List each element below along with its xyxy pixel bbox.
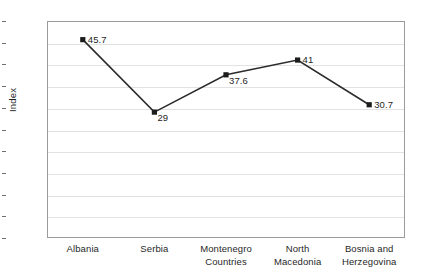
data-point-label: 30.7: [374, 100, 393, 110]
x-axis-title: Countries: [205, 256, 247, 269]
line-chart: 50454035302520151050 Index AlbaniaSerbia…: [0, 0, 425, 278]
series-layer: [0, 0, 425, 278]
data-point-label: 41: [303, 55, 314, 65]
x-axis-tick-label: Bosnia andHerzegovina: [342, 243, 396, 268]
x-axis-tick-label: Albania: [67, 243, 99, 256]
data-point-label: 37.6: [229, 76, 248, 86]
data-point-marker: [80, 37, 85, 42]
data-point-marker: [367, 102, 372, 107]
x-axis-tick-label: Montenegro: [200, 243, 252, 256]
data-point-marker: [152, 110, 157, 115]
x-axis-tick-label: Serbia: [140, 243, 168, 256]
data-point-label: 45.7: [88, 35, 107, 45]
data-point-marker: [295, 57, 300, 62]
x-axis-tick-label: NorthMacedonia: [274, 243, 321, 268]
data-point-label: 29: [157, 113, 168, 123]
data-point-marker: [223, 72, 228, 77]
